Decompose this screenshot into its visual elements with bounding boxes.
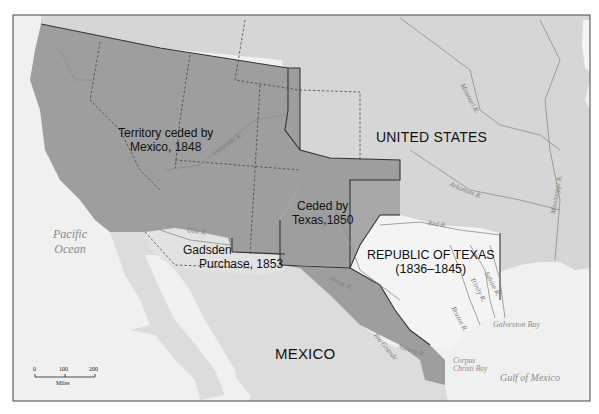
- label-gadsden-line1: Gadsden: [183, 244, 283, 258]
- label-galveston-bay: Galveston Bay: [493, 320, 540, 329]
- label-cession-1848-line2: Mexico, 1848: [118, 141, 213, 155]
- label-republic-line1: REPUBLIC OF TEXAS: [367, 248, 495, 262]
- label-pacific-line2: Ocean: [53, 242, 87, 257]
- scale-tick-0: 0: [33, 366, 36, 372]
- label-mexico: MEXICO: [275, 345, 335, 362]
- label-united-states: UNITED STATES: [376, 129, 487, 145]
- scale-tick-100: 100: [59, 366, 68, 372]
- label-texas-cession-line2: Texas,1850: [292, 214, 353, 228]
- label-cession-1848-line1: Territory ceded by: [118, 127, 213, 141]
- label-texas-cession-line1: Ceded by: [292, 200, 353, 214]
- label-texas-cession: Ceded by Texas,1850: [292, 200, 353, 228]
- label-pacific-line1: Pacific: [53, 227, 87, 242]
- label-republic-of-texas: REPUBLIC OF TEXAS (1836–1845): [367, 248, 495, 277]
- scale-tick-200: 200: [89, 366, 98, 372]
- label-gadsden: Gadsden Purchase, 1853: [183, 244, 283, 272]
- label-corpus-line2: Christi Bay: [453, 365, 487, 373]
- scale-unit: Miles: [56, 380, 70, 386]
- label-cession-1848: Territory ceded by Mexico, 1848: [118, 127, 213, 155]
- label-gadsden-line2: Purchase, 1853: [199, 258, 283, 272]
- label-gulf-of-mexico: Gulf of Mexico: [500, 372, 560, 383]
- label-republic-line2: (1836–1845): [367, 262, 495, 276]
- label-corpus-christi-bay: Corpus Christi Bay: [453, 357, 487, 374]
- label-pacific-ocean: Pacific Ocean: [53, 227, 87, 257]
